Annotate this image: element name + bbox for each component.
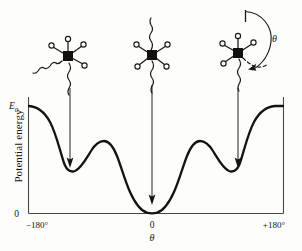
molecule-center-chain-up [150, 18, 153, 50]
arrow-right [235, 88, 242, 168]
molecule-left-atom-1 [49, 43, 54, 48]
molecule-left-chain-lower-left [33, 61, 62, 73]
x-axis-left-label: −180° [26, 220, 49, 230]
molecule-right-chain-down [238, 59, 241, 91]
molecule-left-atom-2 [65, 36, 70, 41]
molecule-center-atom-1 [134, 42, 139, 47]
x-axis-right-label: +180° [263, 220, 286, 230]
molecule-right-center-atom [234, 49, 243, 58]
molecule-left-atom-4 [82, 63, 87, 68]
theta-angle-arc [246, 12, 272, 71]
molecule-left-center-atom [64, 52, 73, 61]
molecule-right: θ [220, 10, 277, 91]
molecule-left-atom-3 [81, 42, 86, 47]
molecule-center [134, 18, 170, 93]
molecule-right-atom-2 [235, 33, 240, 38]
x-axis-center-label: 0 [150, 220, 155, 230]
molecule-left [33, 36, 87, 95]
molecule-right-atom-3 [251, 40, 256, 45]
molecule-center-center-atom [148, 51, 157, 60]
y-axis-title: Potential energy [12, 91, 24, 201]
molecule-center-atom-2 [165, 42, 170, 47]
energy-curve-group [29, 106, 283, 213]
molecule-center-atom-3 [135, 64, 140, 69]
molecule-right-atom-1 [220, 41, 225, 46]
y-axis-zero-label: 0 [14, 209, 19, 219]
theta-arc-arrowhead [248, 64, 257, 71]
molecule-right-atom-4 [221, 61, 226, 66]
arrow-center [149, 85, 156, 205]
molecule-center-atom-4 [164, 64, 169, 69]
theta-angle-label: θ [272, 33, 277, 44]
arrow-left [67, 88, 74, 168]
x-axis-title: θ [150, 232, 155, 243]
chart-axes [29, 97, 284, 214]
potential-energy-chart: θ E0 0 −180° 0 +180° θ [0, 0, 302, 251]
potential-energy-curve [29, 106, 283, 213]
figure-container: θ E0 0 −180° 0 +180° θ Potential energy [0, 0, 302, 251]
